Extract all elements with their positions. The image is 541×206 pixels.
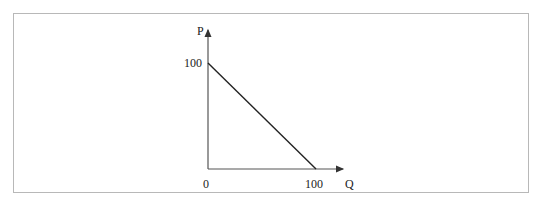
demand-line [208,63,316,169]
p-axis-label: P [197,25,204,37]
x-tick-100: 100 [305,178,323,190]
origin-label: 0 [203,178,209,190]
q-axis-label: Q [345,178,354,190]
demand-chart [0,0,541,206]
y-tick-100: 100 [184,57,202,69]
